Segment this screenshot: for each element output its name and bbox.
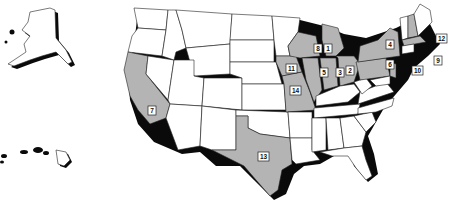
- label-new-jersey: 10: [412, 66, 423, 75]
- state-new-mexico[interactable]: [200, 106, 236, 150]
- svg-text:3: 3: [338, 69, 342, 76]
- svg-text:1: 1: [326, 45, 330, 52]
- svg-text:8: 8: [316, 45, 320, 52]
- label-california: 7: [148, 106, 156, 115]
- label-wisconsin: 8: [314, 44, 322, 53]
- svg-text:12: 12: [438, 35, 446, 42]
- label-new-york: 4: [386, 40, 394, 49]
- label-missouri: 14: [290, 86, 301, 95]
- svg-text:10: 10: [414, 67, 422, 74]
- state-oregon[interactable]: [128, 28, 166, 56]
- label-massachusetts: 9: [434, 56, 442, 65]
- label-michigan: 1: [324, 44, 332, 53]
- label-texas: 13: [258, 152, 269, 161]
- svg-text:9: 9: [436, 57, 440, 64]
- state-mississippi[interactable]: [312, 118, 326, 152]
- state-arkansas[interactable]: [288, 112, 312, 138]
- label-illinois: 5: [320, 68, 328, 77]
- state-colorado[interactable]: [202, 78, 242, 110]
- svg-text:11: 11: [288, 65, 295, 72]
- svg-text:14: 14: [292, 87, 300, 94]
- us-map: 1 2 3 4 5 6 7 8 9 10 11 12 13 14: [0, 0, 449, 208]
- alaska-inset: [5, 8, 76, 69]
- hawaii-inset: [0, 147, 72, 168]
- label-iowa: 11: [286, 64, 297, 73]
- svg-text:2: 2: [348, 67, 352, 74]
- label-indiana: 3: [336, 68, 344, 77]
- svg-text:5: 5: [322, 69, 326, 76]
- label-new-hampshire: 12: [436, 34, 447, 43]
- svg-text:13: 13: [260, 153, 268, 160]
- state-washington[interactable]: [134, 8, 168, 30]
- state-south-dakota[interactable]: [230, 40, 274, 62]
- state-kansas[interactable]: [242, 84, 286, 110]
- svg-text:7: 7: [150, 107, 154, 114]
- state-connecticut[interactable]: [402, 44, 414, 54]
- svg-text:6: 6: [388, 61, 392, 68]
- label-pennsylvania: 6: [386, 60, 394, 69]
- svg-text:4: 4: [388, 41, 392, 48]
- label-ohio: 2: [346, 66, 354, 75]
- state-north-dakota[interactable]: [230, 14, 274, 40]
